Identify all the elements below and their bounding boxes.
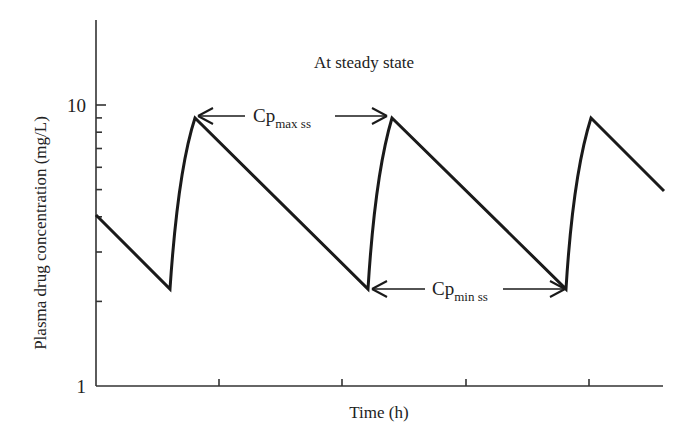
ytick-label-1: 1	[77, 376, 87, 397]
cpmin-sub: min ss	[454, 289, 488, 304]
cpmin-label: Cpmin ss	[432, 278, 488, 304]
cpmax-main: Cp	[253, 105, 275, 126]
concentration-curve	[96, 118, 664, 289]
cpmax-sub: max ss	[275, 116, 311, 131]
chart-title: At steady state	[314, 53, 414, 72]
x-axis-label: Time (h)	[349, 403, 408, 422]
y-axis	[96, 20, 106, 386]
cpmin-main: Cp	[432, 278, 454, 299]
x-axis	[96, 379, 663, 386]
ytick-label-10: 10	[67, 95, 86, 116]
y-axis-label: Plasma drug concentration (mg/L)	[31, 116, 50, 350]
pk-chart: 10 1 Plasma drug concentration (mg/L) Ti…	[0, 0, 690, 443]
cpmax-label: Cpmax ss	[253, 105, 311, 131]
